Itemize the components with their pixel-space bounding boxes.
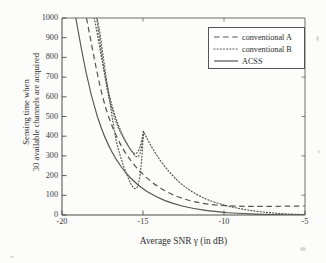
legend-entry-conventional-b: conventional B [209,43,304,55]
legend-entry-conventional-a: conventional A [209,31,304,43]
legend-label-conventional-a: conventional A [239,33,292,42]
y-axis-ticks [62,18,67,215]
ytick-label-800: 800 [28,53,58,61]
ytick-label-500: 500 [28,113,58,121]
dashed-line-icon [213,32,239,42]
legend-label-conventional-b: conventional B [239,45,292,54]
ytick-label-100: 100 [28,191,58,199]
xtick-label-minus5: -5 [293,218,317,226]
legend-label-acss: ACSS [239,57,262,66]
ytick-label-700: 700 [28,73,58,81]
legend-entry-acss: ACSS [209,55,304,67]
curve-conventional-b [89,0,144,189]
ytick-label-300: 300 [28,152,58,160]
ytick-label-900: 900 [28,34,58,42]
x-axis-ticks-top [143,18,224,22]
figure-chart-sensing-time: 1000 900 800 700 600 500 400 300 200 100… [0,0,326,263]
ytick-label-1000: 1000 [28,14,58,22]
curve-conventional-b-main [97,18,144,157]
legend-box: conventional A conventional B ACSS [208,27,305,69]
solid-line-icon [213,56,239,66]
x-axis-label: Average SNR γ (in dB) [62,236,305,246]
xtick-label-minus10: -10 [212,218,236,226]
ytick-label-400: 400 [28,132,58,140]
xtick-label-minus20: -20 [50,218,74,226]
dotted-line-icon [213,44,239,54]
ytick-label-600: 600 [28,93,58,101]
ytick-label-200: 200 [28,172,58,180]
xtick-label-minus15: -15 [131,218,155,226]
